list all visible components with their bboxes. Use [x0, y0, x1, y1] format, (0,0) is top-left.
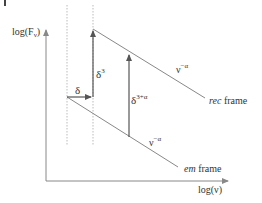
rec-frame-spectrum-line — [93, 29, 205, 98]
em-frame-label: em frame — [184, 163, 222, 174]
rec-frame-label: rec frame — [209, 95, 248, 106]
corner-mark — [4, 0, 6, 6]
delta-label: δ — [75, 84, 80, 96]
em-frame-spectrum-line — [67, 97, 178, 167]
spectrum-shift-diagram: log(Fν) log(ν) δ δ3 δ3+α ν−α ν−α rec fra… — [0, 0, 262, 203]
delta3-label: δ3 — [96, 67, 105, 80]
y-axis-label: log(Fν) — [12, 26, 40, 39]
em-slope-label: ν−α — [149, 135, 161, 148]
rec-slope-label: ν−α — [176, 62, 188, 75]
delta3-alpha-label: δ3+α — [131, 93, 148, 106]
x-axis-label: log(ν) — [198, 184, 222, 196]
